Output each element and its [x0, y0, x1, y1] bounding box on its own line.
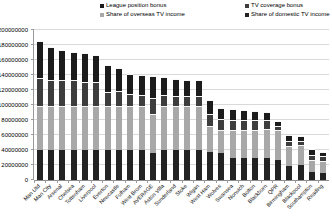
bar-blackpool: [298, 30, 304, 180]
bar-segment: [173, 106, 179, 150]
bar-chelsea: [71, 30, 77, 180]
bar-segment: [264, 112, 270, 121]
y-tick: [31, 149, 34, 150]
bar-segment: [105, 65, 111, 92]
bar-southampton: [309, 30, 315, 180]
bar-segment: [309, 160, 315, 172]
bar-west-brom: [139, 30, 145, 180]
bar-segment: [241, 130, 247, 159]
bar-segment: [184, 150, 190, 180]
bar-segment: [48, 150, 54, 180]
bar-segment: [161, 77, 167, 95]
legend-column-left: League position bonus Share of overseas …: [100, 2, 185, 20]
bar-segment: [71, 80, 77, 107]
bar-segment: [286, 166, 292, 180]
bar-segment: [150, 114, 156, 153]
bar-segment: [59, 106, 65, 150]
bar-segment: [59, 50, 65, 80]
bar-segment: [184, 96, 190, 106]
bar-segment: [320, 173, 326, 181]
bar-segment: [37, 106, 43, 150]
x-axis-labels: Man UtdMan CityArsenalChelseaTottenhamLi…: [33, 182, 328, 218]
bar-segment: [196, 96, 202, 106]
bar-reading: [320, 30, 326, 180]
gridline: [34, 164, 329, 165]
bar-segment: [139, 95, 145, 107]
bar-segment: [173, 79, 179, 96]
bar-segment: [173, 96, 179, 107]
stacked-bar-chart: League position bonus Share of overseas …: [0, 0, 332, 218]
bar-segment: [116, 68, 122, 92]
bar-segment: [48, 80, 54, 107]
bar-segment: [82, 53, 88, 82]
bar-segment: [105, 106, 111, 150]
bar-segment: [264, 120, 270, 129]
bar-segment: [127, 74, 133, 94]
bar-segment: [82, 106, 88, 150]
bar-segment: [161, 95, 167, 107]
bar-segment: [320, 161, 326, 173]
bar-segment: [93, 150, 99, 180]
gridline: [34, 44, 329, 45]
legend-column-right: TV coverage bonus Share of domestic TV i…: [245, 2, 330, 20]
bar-segment: [37, 150, 43, 180]
bar-segment: [139, 150, 145, 180]
bar-aston-villa: [161, 30, 167, 180]
bar-wolves: [218, 30, 224, 180]
bar-segment: [127, 106, 133, 150]
y-tick: [31, 104, 34, 105]
gridline: [34, 119, 329, 120]
legend-item-league-position-bonus: League position bonus: [100, 2, 185, 9]
bar-segment: [207, 114, 213, 126]
y-tick: [31, 29, 34, 30]
bar-segment: [150, 76, 156, 98]
y-tick-label: 100000000: [0, 102, 28, 108]
bar-segment: [252, 158, 258, 180]
y-tick: [31, 59, 34, 60]
y-tick-label: 140000000: [0, 72, 28, 78]
bar-segment: [184, 106, 190, 150]
bar-segment: [298, 145, 304, 165]
legend-label: League position bonus: [106, 2, 166, 9]
bar-stoke: [184, 30, 190, 180]
bar-tottenham: [82, 30, 88, 180]
gridline: [34, 59, 329, 60]
bar-segment: [105, 92, 111, 107]
bar-segment: [161, 106, 167, 150]
bar-segment: [309, 172, 315, 180]
bar-newcastle: [116, 30, 122, 180]
legend-label: Share of overseas TV income: [106, 11, 185, 18]
y-tick: [31, 74, 34, 75]
y-tick-label: 0: [25, 177, 28, 183]
bar-segment: [196, 150, 202, 180]
y-axis: 0200000004000000060000000800000001000000…: [0, 30, 30, 180]
bar-segment: [150, 153, 156, 180]
bar-segment: [241, 120, 247, 129]
bar-segment: [196, 106, 202, 150]
bar-segment: [264, 158, 270, 181]
bar-segment: [241, 110, 247, 120]
bar-segment: [230, 158, 236, 180]
bar-segment: [230, 120, 236, 130]
bar-bolton: [252, 30, 258, 180]
bar-segment: [116, 150, 122, 180]
gridline: [34, 89, 329, 90]
bar-segment: [252, 130, 258, 159]
bar-segment: [150, 98, 156, 114]
bar-average: [150, 30, 156, 180]
bar-segment: [286, 146, 292, 166]
legend-item-tv-coverage-bonus: TV coverage bonus: [245, 2, 330, 9]
gridline: [34, 134, 329, 135]
bar-segment: [82, 82, 88, 106]
bar-segment: [37, 78, 43, 107]
y-tick-label: 200000000: [0, 27, 28, 33]
bar-segment: [298, 165, 304, 180]
y-tick-label: 40000000: [1, 147, 28, 153]
bar-segment: [184, 80, 190, 97]
bar-segment: [127, 94, 133, 106]
y-tick: [31, 164, 34, 165]
legend-marker-icon: [100, 4, 104, 8]
bar-birmingham: [286, 30, 292, 180]
bar-segment: [116, 91, 122, 106]
bar-segment: [230, 109, 236, 120]
